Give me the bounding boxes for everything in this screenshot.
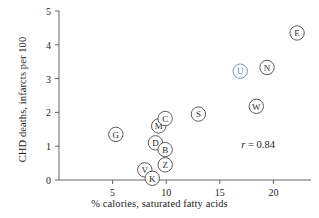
data-point-label: Z	[162, 160, 168, 170]
data-point-marker: U	[233, 64, 247, 78]
y-tick-label: 4	[27, 39, 51, 50]
axes-group	[55, 11, 311, 184]
correlation-value: = 0.84	[245, 139, 275, 150]
data-point-marker: N	[260, 60, 274, 74]
data-markers-group: GVKDMCBZSUWNE	[109, 26, 305, 186]
x-tick-label: 20	[268, 187, 278, 198]
x-tick-label: 10	[161, 187, 171, 198]
y-tick-label: 1	[27, 141, 51, 152]
data-point-marker: W	[249, 99, 263, 113]
y-tick-label: 5	[27, 6, 51, 17]
x-axis-title: % calories, saturated fatty acids	[0, 198, 319, 209]
scatter-plot-figure: GVKDMCBZSUWNE 012345 5101520 r = 0.84 % …	[0, 0, 319, 218]
data-point-marker: E	[290, 26, 304, 40]
data-point-marker: S	[191, 107, 205, 121]
data-point-label: N	[264, 63, 271, 73]
data-point-marker: K	[145, 171, 159, 185]
y-tick-label: 2	[27, 107, 51, 118]
y-axis-title: CHD deaths, infarcts per 100	[17, 15, 28, 185]
data-point-label: C	[162, 114, 168, 124]
data-point-marker: B	[158, 142, 172, 156]
data-point-marker: C	[158, 111, 172, 125]
data-point-marker: G	[109, 127, 123, 141]
correlation-annotation: r = 0.84	[241, 139, 275, 150]
data-point-label: G	[113, 130, 120, 140]
y-tick-label: 0	[27, 175, 51, 186]
x-tick-label: 15	[215, 187, 225, 198]
y-tick-label: 3	[27, 73, 51, 84]
data-point-label: W	[252, 102, 261, 112]
x-tick-label: 5	[110, 187, 115, 198]
data-point-label: E	[294, 28, 300, 38]
data-point-label: B	[162, 145, 168, 155]
data-point-label: S	[196, 109, 201, 119]
data-point-label: K	[149, 174, 156, 184]
data-point-marker: Z	[158, 158, 172, 172]
data-point-label: U	[237, 66, 244, 76]
